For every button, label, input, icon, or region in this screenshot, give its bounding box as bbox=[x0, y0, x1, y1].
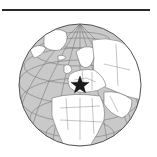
globe-svg bbox=[0, 0, 157, 157]
locator-globe: Europe bbox=[0, 0, 157, 157]
